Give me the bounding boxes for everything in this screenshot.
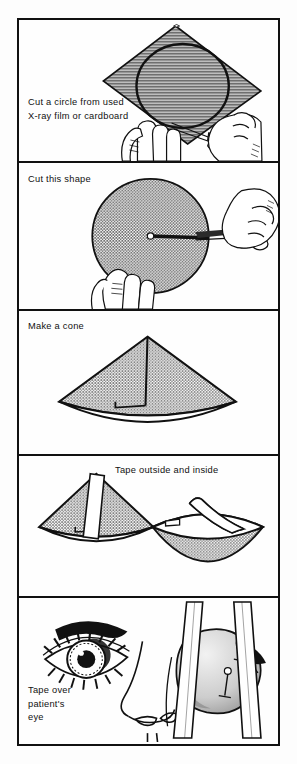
open-eye: [43, 621, 129, 690]
panel-1-caption: Cut a circle from used X-ray film or car…: [28, 96, 128, 123]
panel-3-make-a-cone: Make a cone: [19, 309, 278, 454]
nose: [121, 641, 176, 742]
panel-2-cut-this-shape: Cut this shape: [19, 161, 278, 309]
panel-frame: Cut a circle from used X-ray film or car…: [17, 18, 280, 746]
cone-outside-with-tape: [39, 474, 153, 542]
right-hand: [222, 189, 278, 248]
paper-cone: [59, 337, 236, 422]
panel-4-caption: Tape outside and inside: [115, 464, 218, 478]
panel-3-caption: Make a cone: [28, 320, 84, 334]
instruction-sheet: Cut a circle from used X-ray film or car…: [0, 0, 297, 764]
panel-1-illustration: [19, 20, 278, 161]
panel-2-caption: Cut this shape: [28, 173, 91, 187]
panel-5-tape-over-patients-eye: Tape over patient's eye: [19, 596, 278, 743]
panel-5-caption: Tape over patient's eye: [28, 684, 71, 725]
panel-4-tape-outside-and-inside: Tape outside and inside: [19, 454, 278, 596]
panel-1-cut-a-circle: Cut a circle from used X-ray film or car…: [19, 20, 278, 161]
cone-inside-with-tape: [153, 498, 263, 561]
